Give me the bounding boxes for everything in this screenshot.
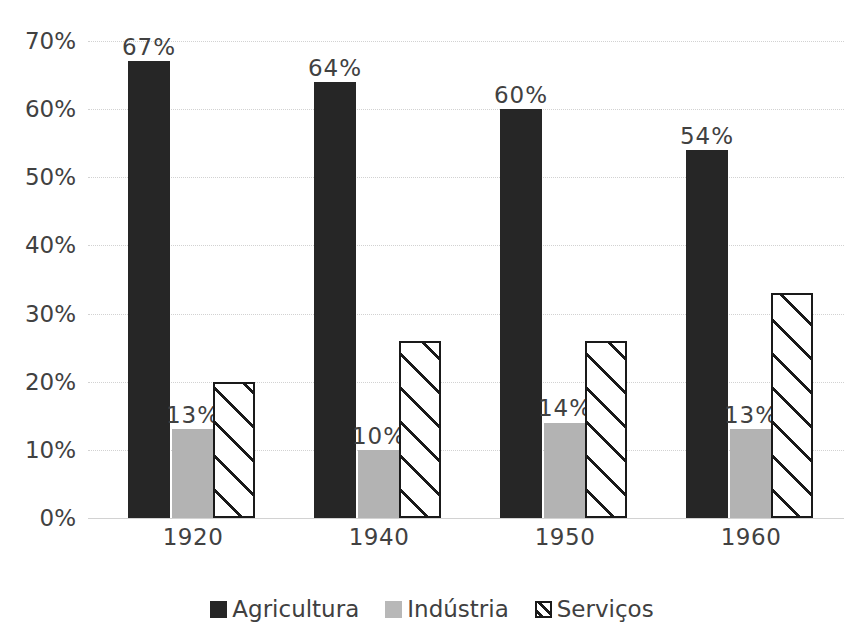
bar-value-label: 10%	[352, 424, 406, 448]
chart-legend: Agricultura Indústria Serviços	[0, 596, 864, 622]
x-axis-tick-label-1940: 1940	[349, 524, 410, 550]
legend-label-industria: Indústria	[407, 596, 508, 622]
y-axis-tick-label: 0%	[40, 505, 77, 531]
y-axis-tick-label: 10%	[25, 437, 76, 463]
bar-industria-1920[interactable]: 13%	[172, 429, 214, 518]
bar-value-label: 64%	[308, 56, 362, 80]
gridline-0-baseline	[88, 518, 844, 519]
y-axis-tick-label: 60%	[25, 96, 76, 122]
legend-swatch-industria-icon	[385, 601, 402, 618]
bar-chart: 70% 60% 50% 40% 30% 20% 10% 0% 67%	[0, 0, 864, 632]
legend-swatch-servicos-icon	[535, 601, 552, 618]
bar-servicos-1960[interactable]: 33%	[771, 293, 813, 518]
legend-item-agricultura[interactable]: Agricultura	[210, 596, 359, 622]
bar-agricultura-1940[interactable]: 64%	[314, 82, 356, 518]
x-axis-tick-label-1960: 1960	[721, 524, 782, 550]
legend-swatch-agricultura-icon	[210, 601, 227, 618]
hatch-pattern	[535, 601, 552, 618]
hatch-pattern	[585, 341, 627, 518]
x-axis: 1920 1940 1950 1960	[88, 524, 844, 564]
bar-value-label: 60%	[494, 83, 548, 107]
bar-groups: 67% 13% 20% 64% 10%	[88, 41, 844, 518]
bar-value-label: 13%	[166, 403, 220, 427]
bar-group-1920: 67% 13% 20%	[128, 41, 298, 518]
bar-value-label: 14%	[538, 396, 592, 420]
plot-area: 67% 13% 20% 64% 10%	[88, 41, 844, 518]
bar-servicos-1950[interactable]: 26%	[585, 341, 627, 518]
bar-industria-1950[interactable]: 14%	[544, 423, 586, 518]
bar-value-label: 67%	[122, 35, 176, 59]
y-axis-tick-label: 20%	[25, 369, 76, 395]
legend-item-industria[interactable]: Indústria	[385, 596, 508, 622]
y-axis-tick-label: 30%	[25, 301, 76, 327]
bar-group-1940: 64% 10% 26%	[314, 41, 484, 518]
bar-industria-1960[interactable]: 13%	[730, 429, 772, 518]
bar-industria-1940[interactable]: 10%	[358, 450, 400, 518]
legend-label-servicos: Serviços	[557, 596, 654, 622]
legend-item-servicos[interactable]: Serviços	[535, 596, 654, 622]
bar-value-label: 13%	[724, 403, 778, 427]
bar-group-1950: 60% 14% 26%	[500, 41, 670, 518]
y-axis: 70% 60% 50% 40% 30% 20% 10% 0%	[0, 41, 76, 518]
hatch-pattern	[213, 382, 255, 518]
y-axis-tick-label: 70%	[25, 28, 76, 54]
bar-servicos-1920[interactable]: 20%	[213, 382, 255, 518]
bar-value-label: 54%	[680, 124, 734, 148]
bar-agricultura-1920[interactable]: 67%	[128, 61, 170, 518]
bar-agricultura-1960[interactable]: 54%	[686, 150, 728, 518]
bar-agricultura-1950[interactable]: 60%	[500, 109, 542, 518]
y-axis-tick-label: 50%	[25, 164, 76, 190]
x-axis-tick-label-1950: 1950	[535, 524, 596, 550]
legend-label-agricultura: Agricultura	[232, 596, 359, 622]
x-axis-tick-label-1920: 1920	[163, 524, 224, 550]
bar-group-1960: 54% 13% 33%	[686, 41, 856, 518]
hatch-pattern	[399, 341, 441, 518]
bar-servicos-1940[interactable]: 26%	[399, 341, 441, 518]
y-axis-tick-label: 40%	[25, 232, 76, 258]
hatch-pattern	[771, 293, 813, 518]
